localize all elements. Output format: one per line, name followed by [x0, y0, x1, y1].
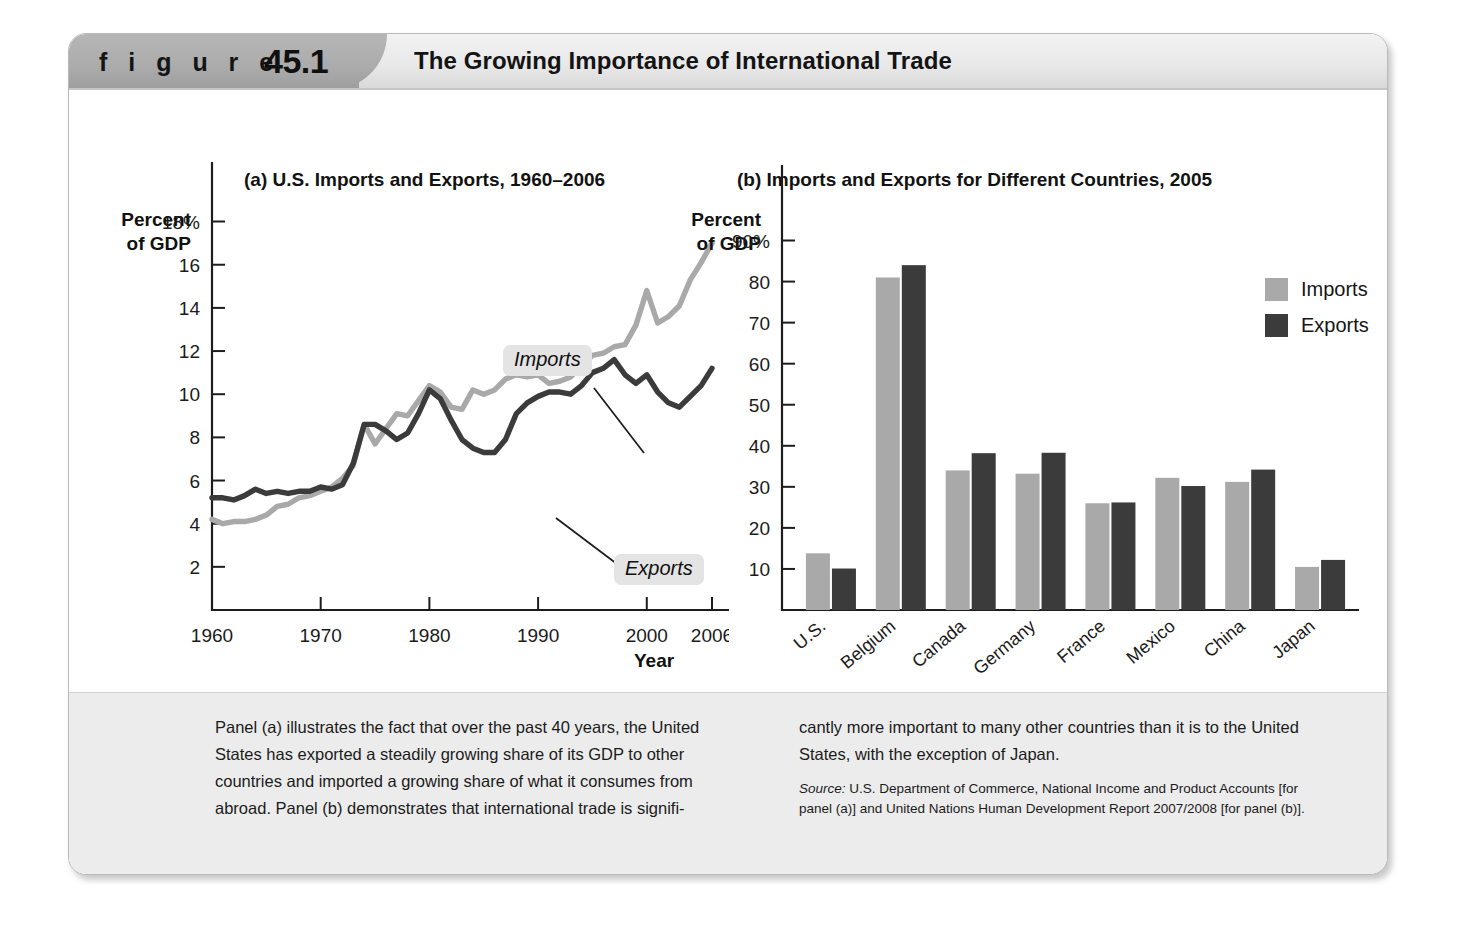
panel-b-y-tick-label: 40 [749, 436, 770, 457]
panel-b-y-tick-label: 60 [749, 354, 770, 375]
panel-b-chart: 102030405060708090%U.S.BelgiumCanadaGerm… [69, 90, 1388, 695]
caption-right-column: cantly more important to many other coun… [799, 714, 1329, 818]
panel-b-legend-label: Imports [1301, 278, 1368, 301]
panel-b-legend-swatch [1265, 314, 1288, 337]
panel-b-bar-exports [1251, 470, 1275, 610]
figure-card: f i g u r e 45.1 The Growing Importance … [68, 33, 1388, 875]
panel-b-category-label: Belgium [837, 616, 900, 673]
panel-b-bar-imports [1225, 482, 1249, 610]
figure-plot-area: (a) U.S. Imports and Exports, 1960–2006 … [69, 90, 1387, 695]
panel-b-bar-imports [946, 470, 970, 610]
caption-left-column: Panel (a) illustrates the fact that over… [215, 714, 735, 822]
panel-b-legend: ImportsExports [1265, 278, 1369, 350]
panel-b-y-tick-label: 30 [749, 477, 770, 498]
panel-b-y-tick-label: 10 [749, 559, 770, 580]
panel-b-category-label: Mexico [1122, 616, 1179, 668]
panel-b-y-tick-label: 70 [749, 313, 770, 334]
panel-b-category-label: Japan [1268, 616, 1318, 663]
panel-b-legend-item: Exports [1265, 314, 1369, 337]
panel-b-y-tick-label: 20 [749, 518, 770, 539]
figure-label: f i g u r e [99, 48, 280, 77]
panel-b-bar-imports [1155, 478, 1179, 610]
caption-source-text: U.S. Department of Commerce, National In… [799, 781, 1305, 816]
panel-b-y-tick-label: 80 [749, 272, 770, 293]
figure-page: f i g u r e 45.1 The Growing Importance … [0, 0, 1463, 929]
panel-b-category-label: France [1053, 616, 1109, 667]
figure-title: The Growing Importance of International … [414, 47, 952, 75]
panel-b-bar-exports [1321, 560, 1345, 610]
panel-b-bar-exports [972, 453, 996, 610]
panel-b-category-label: U.S. [790, 616, 830, 654]
panel-b-bar-imports [876, 277, 900, 610]
panel-b-bar-exports [1042, 453, 1066, 610]
panel-b-bar-exports [832, 569, 856, 610]
panel-b-bar-exports [1181, 486, 1205, 610]
panel-b-bar-imports [1016, 474, 1040, 610]
panel-b-y-tick-label: 50 [749, 395, 770, 416]
panel-b-category-label: Germany [970, 616, 1040, 679]
panel-b-y-tick-label: 90% [732, 231, 770, 252]
panel-b-bar-imports [1295, 567, 1319, 610]
caption-source-prefix: Source: [799, 781, 846, 796]
panel-b-bar-exports [1111, 502, 1135, 610]
figure-header: f i g u r e 45.1 The Growing Importance … [69, 34, 1387, 90]
panel-b-category-label: Canada [908, 615, 970, 671]
panel-b-bar-exports [902, 265, 926, 610]
figure-caption-band: Panel (a) illustrates the fact that over… [69, 692, 1387, 874]
figure-number: 45.1 [264, 42, 328, 81]
panel-b-legend-swatch [1265, 278, 1288, 301]
panel-b-category-label: China [1200, 615, 1250, 661]
caption-source: Source: U.S. Department of Commerce, Nat… [799, 779, 1329, 818]
panel-b-bar-imports [1085, 503, 1109, 610]
panel-b-legend-label: Exports [1301, 314, 1369, 337]
panel-b-bar-imports [806, 553, 830, 610]
caption-right-text: cantly more important to many other coun… [799, 714, 1329, 768]
panel-b-legend-item: Imports [1265, 278, 1369, 301]
